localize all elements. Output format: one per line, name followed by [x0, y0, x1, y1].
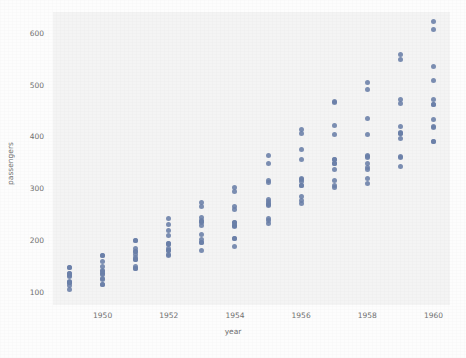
x-axis-tick-labels: 195019521954195619581960: [0, 0, 466, 358]
x-tick-label: 1954: [225, 311, 244, 320]
scatter-plot-figure: 100200300400500600 195019521954195619581…: [0, 0, 466, 358]
x-tick-label: 1960: [424, 311, 443, 320]
x-axis-label: year: [0, 327, 466, 336]
x-tick-label: 1958: [358, 311, 377, 320]
x-tick-label: 1956: [292, 311, 311, 320]
y-axis-label: passengers: [6, 119, 15, 209]
x-tick-label: 1952: [159, 311, 178, 320]
x-tick-label: 1950: [93, 311, 112, 320]
